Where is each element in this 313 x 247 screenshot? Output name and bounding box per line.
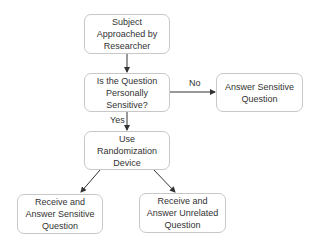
randomization-node: Use Randomization Device xyxy=(84,131,170,170)
decision-node: Is the Question Personally Sensitive? xyxy=(84,73,170,112)
start-node: Subject Approached by Researcher xyxy=(84,14,170,54)
answer-sensitive-direct-node: Answer Sensitive Question xyxy=(216,73,303,112)
receive-sensitive-node: Receive and Answer Sensitive Question xyxy=(17,194,103,234)
yes-edge-label: Yes xyxy=(110,115,125,125)
receive-unrelated-node: Receive and Answer Unrelated Question xyxy=(139,193,226,233)
no-edge-label: No xyxy=(189,78,201,88)
